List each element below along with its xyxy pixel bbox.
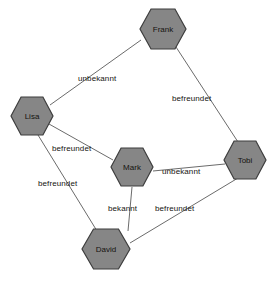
edge-label-mark-david: bekannt — [108, 204, 137, 214]
node-label-frank: Frank — [153, 25, 174, 34]
graph-canvas: FrankLisaTobiMarkDavid unbekanntbefreund… — [0, 0, 269, 281]
node-group: FrankLisaTobiMarkDavid — [11, 9, 266, 269]
node-label-tobi: Tobi — [238, 156, 253, 165]
graph-svg: FrankLisaTobiMarkDavid — [0, 0, 269, 281]
edge-lisa-frank[interactable] — [50, 40, 141, 105]
node-lisa[interactable]: Lisa — [11, 97, 53, 135]
node-frank[interactable]: Frank — [140, 9, 186, 49]
edge-group — [38, 40, 238, 243]
edge-label-lisa-frank: unbekannt — [78, 74, 116, 84]
node-mark[interactable]: Mark — [111, 148, 153, 186]
node-david[interactable]: David — [82, 229, 130, 269]
node-label-lisa: Lisa — [25, 112, 40, 121]
edge-label-frank-tobi: befreundet — [172, 94, 211, 104]
node-label-mark: Mark — [123, 163, 142, 172]
edge-label-tobi-david: befreundet — [155, 204, 194, 214]
edge-label-lisa-david: befreundet — [38, 179, 77, 189]
node-tobi[interactable]: Tobi — [224, 141, 266, 179]
node-label-david: David — [96, 245, 116, 254]
edge-label-lisa-mark: befreundet — [52, 144, 91, 154]
edge-lisa-mark[interactable] — [49, 124, 113, 160]
edge-label-mark-tobi: unbekannt — [162, 167, 200, 177]
